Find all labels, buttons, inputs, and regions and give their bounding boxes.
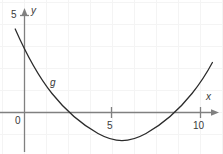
parabola-figure: 5 5 10 0 x y g bbox=[0, 0, 223, 154]
x-axis bbox=[0, 107, 219, 118]
y-axis bbox=[20, 8, 29, 152]
curve-g bbox=[15, 29, 212, 141]
x-axis-label: x bbox=[206, 92, 211, 102]
origin-label: 0 bbox=[15, 116, 21, 126]
x-tick-label-5: 5 bbox=[107, 121, 113, 131]
curve-label-g: g bbox=[50, 78, 56, 88]
y-tick-label-5: 5 bbox=[11, 10, 17, 20]
y-axis-label: y bbox=[31, 6, 36, 16]
x-tick-label-10: 10 bbox=[193, 121, 204, 131]
